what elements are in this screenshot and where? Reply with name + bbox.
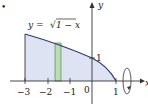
y-tick-label-1: 1 bbox=[96, 53, 102, 63]
x-tick-labels: −3 −2 −1 0 1 bbox=[17, 85, 119, 97]
svg-text:−2: −2 bbox=[39, 87, 52, 97]
x-axis-label: x bbox=[145, 78, 148, 88]
svg-text:0: 0 bbox=[84, 85, 90, 95]
representative-strip bbox=[55, 43, 61, 81]
equation-label: y = √ 1 − x bbox=[27, 19, 80, 30]
svg-text:1: 1 bbox=[113, 87, 119, 97]
shaded-region bbox=[25, 34, 116, 81]
svg-text:−3: −3 bbox=[17, 87, 31, 97]
y-axis-arrow-icon bbox=[90, 2, 95, 8]
y-axis-label: y bbox=[97, 0, 104, 10]
svg-text:1 − x: 1 − x bbox=[56, 20, 80, 30]
svg-text:−1: −1 bbox=[63, 87, 76, 97]
svg-text:y =: y = bbox=[27, 20, 44, 30]
solid-of-revolution-diagram: • y x 1 y = √ 1 − x −3 −2 −1 0 1 bbox=[0, 0, 148, 108]
bullet: • bbox=[1, 2, 6, 12]
